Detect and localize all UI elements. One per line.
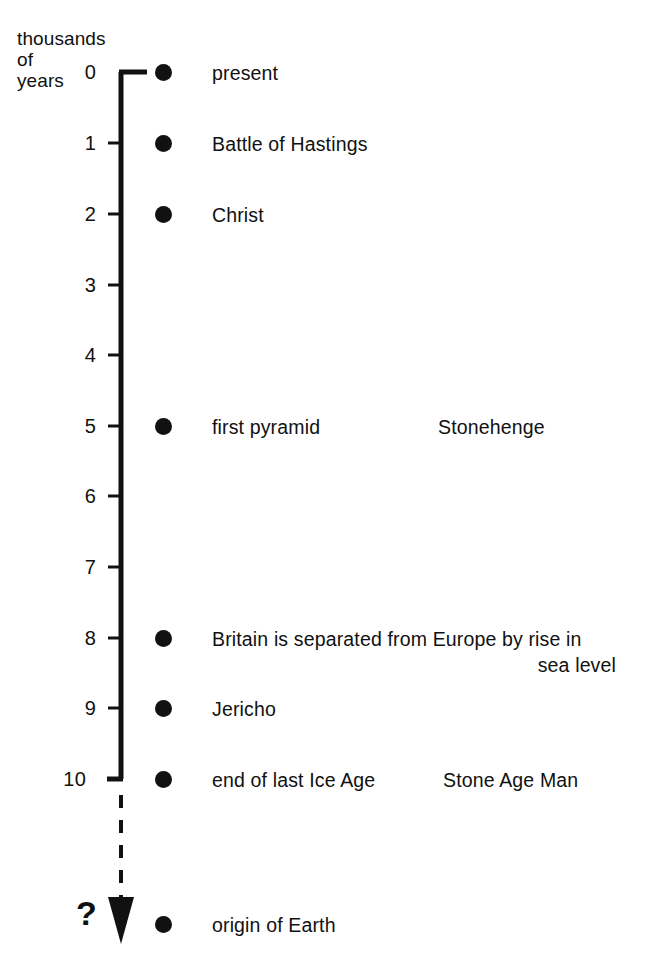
event-dot-present (155, 64, 172, 81)
event-dot-christ (155, 206, 172, 223)
event-label-christ: Christ (212, 202, 264, 228)
event-label-battle-of-hastings: Battle of Hastings (212, 131, 368, 157)
tick-label-1: 1 (52, 133, 96, 153)
tick-label-7: 7 (52, 557, 96, 577)
event-dot-jericho (155, 700, 172, 717)
event-label-end-of-last-ice-age: end of last Ice Age (212, 767, 375, 793)
event-label-stone-age-man: Stone Age Man (443, 767, 578, 793)
event-dot-ice-age-end (155, 771, 172, 788)
unit-caption-line-1: thousands (17, 28, 106, 49)
event-label-origin-of-earth: origin of Earth (212, 912, 336, 938)
axis-arrowhead (108, 897, 134, 944)
event-label-britain-separated-line-2: sea level (212, 652, 616, 678)
unknown-time-marker: ? (76, 896, 97, 930)
event-label-present: present (212, 60, 278, 86)
tick-label-6: 6 (52, 486, 96, 506)
event-label-britain-separated: Britain is separated from Europe by rise… (212, 626, 616, 678)
event-label-stonehenge: Stonehenge (438, 414, 545, 440)
tick-label-5: 5 (52, 416, 96, 436)
tick-label-3: 3 (52, 275, 96, 295)
tick-label-9: 9 (52, 698, 96, 718)
event-dot-origin-earth (155, 916, 172, 933)
tick-label-8: 8 (52, 628, 96, 648)
timeline-figure: thousands of years 0 1 2 3 4 5 6 7 8 9 1… (0, 0, 660, 979)
event-dot-first-pyramid (155, 418, 172, 435)
event-label-britain-separated-line-1: Britain is separated from Europe by rise… (212, 628, 582, 650)
event-label-jericho: Jericho (212, 696, 276, 722)
event-label-first-pyramid: first pyramid (212, 414, 320, 440)
tick-label-0: 0 (52, 62, 96, 82)
event-dot-hastings (155, 135, 172, 152)
event-dot-britain-split (155, 630, 172, 647)
tick-label-4: 4 (52, 345, 96, 365)
tick-label-2: 2 (52, 204, 96, 224)
tick-label-10: 10 (42, 769, 86, 789)
